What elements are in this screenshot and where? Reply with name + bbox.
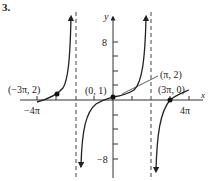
point-neg3pi-2 xyxy=(55,92,60,97)
point-label-0-1: (0, 1) xyxy=(85,85,107,97)
point-label-3pi-0: (3π, 0) xyxy=(158,84,185,96)
problem-number: 3. xyxy=(2,1,11,13)
y-tick-label-neg8: −8 xyxy=(97,154,108,165)
curve-left-branch xyxy=(37,18,71,102)
point-0-1 xyxy=(111,95,116,100)
y-tick-label-8: 8 xyxy=(102,37,107,48)
point-label-neg3pi-2: (−3π, 2) xyxy=(8,84,40,96)
y-axis-label: y xyxy=(103,11,109,22)
x-axis-label: x xyxy=(200,90,205,100)
x-tick-label-4pi: 4π xyxy=(180,105,190,116)
point-3pi-0 xyxy=(168,98,173,103)
x-tick-label-neg4pi: −4π xyxy=(24,105,40,116)
function-graph: 3. x y −4π 4π 8 −8 (−3π, 2) (0, 1) xyxy=(0,0,209,181)
point-label-pi-2: (π, 2) xyxy=(160,69,182,81)
curve-right-branch xyxy=(156,90,189,170)
